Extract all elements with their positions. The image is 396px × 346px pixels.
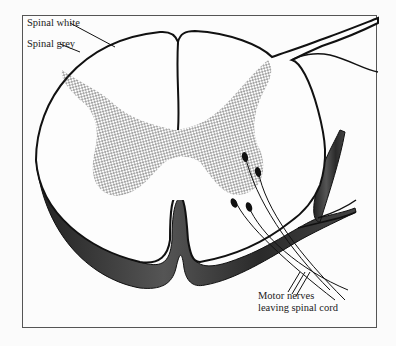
- label-motor-nerves-2: leaving spinal cord: [258, 302, 338, 314]
- label-spinal-white: Spinal white: [27, 17, 80, 29]
- spinal-cord-diagram: [0, 0, 396, 346]
- label-spinal-grey: Spinal grey: [27, 38, 75, 50]
- median-fissure: [177, 42, 178, 130]
- dorsal-root: [292, 54, 378, 72]
- label-motor-nerves-1: Motor nerves: [258, 290, 314, 302]
